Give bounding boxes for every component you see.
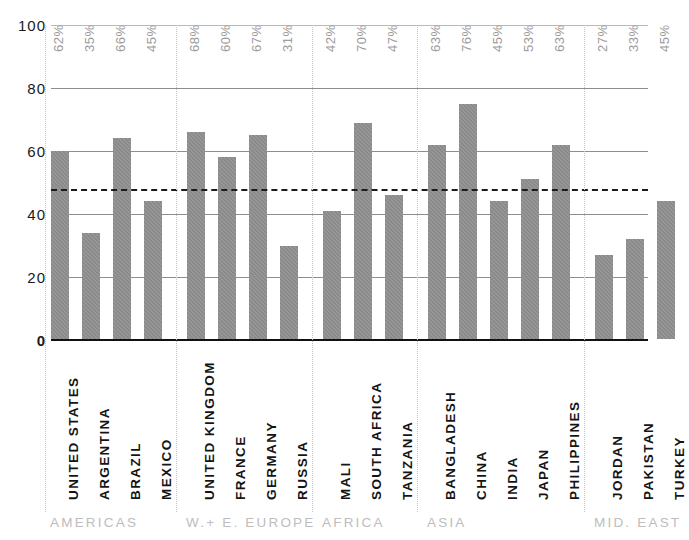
bar-value-label: 35% [82, 34, 100, 49]
bar-value-label: 62% [51, 34, 69, 49]
y-axis-tick-60: 60 [2, 143, 46, 160]
group-divider [312, 25, 314, 512]
group-label: ASIA [427, 515, 467, 530]
bar [521, 179, 539, 339]
bar-value-label: 53% [521, 34, 539, 49]
bar [113, 138, 131, 339]
bar [323, 211, 341, 339]
group-divider [176, 25, 178, 512]
group-label: MID. EAST [594, 515, 681, 530]
bar-value-label: 70% [354, 34, 372, 49]
bar-value-label: 67% [249, 34, 267, 49]
bar [490, 201, 508, 339]
bar [428, 145, 446, 339]
bar [187, 132, 205, 339]
category-label: TURKEY [672, 500, 689, 515]
bar [657, 201, 675, 339]
group-divider [584, 25, 586, 512]
plot-area [51, 25, 648, 340]
bar-value-label: 68% [187, 34, 205, 49]
bar [280, 246, 298, 340]
bar-value-label: 63% [428, 34, 446, 49]
y-axis: 020406080100 [0, 0, 46, 540]
bar [595, 255, 613, 339]
bar [249, 135, 267, 339]
group-label: W.+ E. EUROPE [186, 515, 316, 530]
bar-value-label: 31% [280, 34, 298, 49]
bar-value-label: 47% [385, 34, 403, 49]
group-divider [417, 25, 419, 512]
bar-value-label: 45% [490, 34, 508, 49]
bar-value-label: 63% [552, 34, 570, 49]
bar [51, 151, 69, 339]
bar [459, 104, 477, 339]
average-reference-line [51, 189, 648, 191]
bar [354, 123, 372, 339]
bar-value-label: 60% [218, 34, 236, 49]
bar-value-label: 45% [657, 34, 675, 49]
group-label: AFRICA [322, 515, 385, 530]
y-axis-tick-0: 0 [2, 332, 46, 349]
bar [82, 233, 100, 339]
bar [385, 195, 403, 339]
bar-value-label: 27% [595, 34, 613, 49]
y-axis-tick-20: 20 [2, 269, 46, 286]
y-axis-tick-100: 100 [2, 17, 46, 34]
bar [552, 145, 570, 339]
y-axis-tick-40: 40 [2, 206, 46, 223]
group-label: AMERICAS [50, 515, 138, 530]
y-axis-tick-80: 80 [2, 80, 46, 97]
bar-value-label: 45% [144, 34, 162, 49]
bar-value-label: 42% [323, 34, 341, 49]
bar [218, 157, 236, 339]
bar [144, 201, 162, 339]
bar-value-label: 33% [626, 34, 644, 49]
bar-value-label: 66% [113, 34, 131, 49]
gridline-80 [51, 88, 648, 89]
bar [626, 239, 644, 339]
x-axis-baseline [51, 339, 648, 341]
group-divider [45, 25, 47, 512]
bar-value-label: 76% [459, 34, 477, 49]
